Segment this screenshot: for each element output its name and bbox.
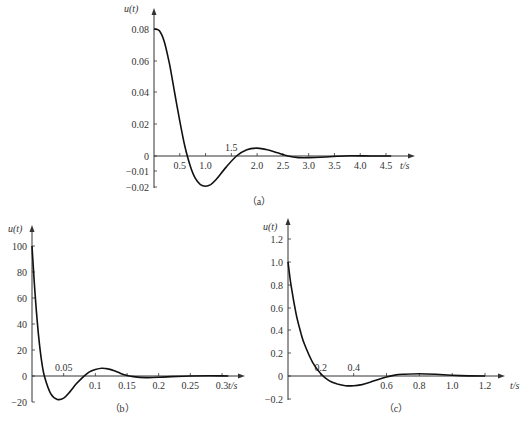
y-tick-label: 0.8	[271, 280, 284, 291]
y-axis-arrow-icon	[286, 218, 291, 225]
y-tick-label: 1.2	[271, 234, 284, 245]
y-tick-label: 0.04	[132, 87, 150, 98]
chart-caption: （b）	[110, 403, 135, 414]
y-tick-label: −20	[11, 397, 27, 408]
y-tick-label: 0.4	[271, 325, 284, 336]
x-axis-arrow-icon	[498, 374, 505, 379]
y-tick-label: −0.2	[265, 394, 283, 405]
y-tick-label: 80	[17, 267, 27, 278]
x-tick-label: 0.25	[182, 380, 200, 391]
chart-caption: （c）	[384, 403, 408, 414]
y-tick-label: 1.0	[271, 257, 284, 268]
x-axis-label: t/s	[400, 160, 410, 171]
x-tick-label: 2.0	[251, 160, 264, 171]
response-curve	[32, 246, 228, 400]
y-axis-arrow-icon	[152, 8, 157, 15]
x-tick-label: 0.3	[216, 380, 229, 391]
y-tick-label: 0	[278, 371, 283, 382]
chart-a: 0.080.060.040.020−0.01−0.020.51.01.52.02…	[124, 3, 415, 207]
x-axis-arrow-icon	[408, 154, 415, 159]
x-tick-label: 3.5	[328, 160, 341, 171]
y-tick-label: 20	[17, 345, 27, 356]
y-axis-label: u(t)	[8, 223, 23, 235]
chart-c: 1.21.00.80.60.40.20−0.20.20.40.60.81.01.…	[263, 218, 520, 414]
y-tick-label: 0.08	[132, 24, 150, 35]
y-tick-label: 0.6	[271, 303, 284, 314]
y-axis-label: u(t)	[263, 221, 278, 233]
y-tick-label: 0.06	[132, 56, 150, 67]
y-tick-label: −0.01	[126, 166, 149, 177]
y-tick-label: 40	[17, 319, 27, 330]
x-tick-label: 0.15	[118, 380, 136, 391]
x-tick-label: 1.0	[199, 160, 212, 171]
x-tick-label: 0.6	[380, 380, 393, 391]
y-tick-label: 60	[17, 293, 27, 304]
y-tick-label: 0.2	[271, 348, 284, 359]
x-tick-label: 0.2	[152, 380, 165, 391]
y-tick-label: 0	[144, 151, 149, 162]
x-tick-label: 0.4	[347, 362, 360, 373]
x-tick-label: 2.5	[277, 160, 290, 171]
x-axis-label: t/s	[510, 380, 520, 391]
x-tick-label: 1.5	[225, 142, 238, 153]
x-tick-label: 4.0	[354, 160, 367, 171]
x-tick-label: 0.8	[413, 380, 426, 391]
y-tick-label: 0	[22, 371, 27, 382]
x-tick-label: 3.0	[302, 160, 315, 171]
y-tick-label: −0.02	[126, 182, 149, 193]
chart-b: 100806040200−200.050.10.150.20.250.3u(t)…	[8, 223, 245, 414]
x-tick-label: 1.0	[446, 380, 459, 391]
x-tick-label: 4.5	[380, 160, 393, 171]
y-axis-arrow-icon	[30, 225, 35, 232]
y-tick-label: 100	[12, 241, 27, 252]
chart-caption: （a）	[247, 196, 271, 207]
x-tick-label: 0.1	[89, 380, 102, 391]
x-tick-label: 0.05	[55, 362, 73, 373]
figure-canvas: 0.080.060.040.020−0.01−0.020.51.01.52.02…	[0, 0, 522, 428]
y-axis-label: u(t)	[124, 3, 139, 15]
x-tick-label: 0.5	[174, 160, 187, 171]
x-tick-label: 1.2	[479, 380, 492, 391]
y-tick-label: 0.02	[132, 119, 150, 130]
x-axis-label: t/s	[228, 380, 238, 391]
x-axis-arrow-icon	[238, 374, 245, 379]
